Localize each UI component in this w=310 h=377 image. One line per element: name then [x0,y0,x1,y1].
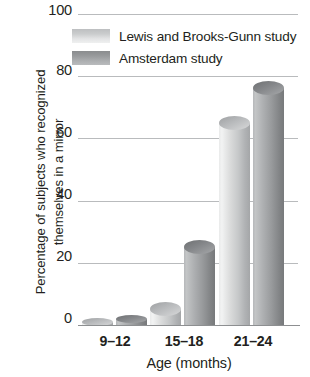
bar-body [253,88,284,325]
bar-body [219,123,250,325]
bar-chart: Percentage of subjects who recognized th… [0,0,310,377]
y-tick-20: 20 [30,248,72,264]
bar-cap [150,302,181,316]
bar-cap [253,81,284,95]
bar-amsterdam-15-18 [184,247,215,325]
y-tick-40: 40 [30,186,72,202]
bar-lewis-15-18 [150,309,181,325]
legend-item-amsterdam: Amsterdam study [72,48,296,68]
y-tick-0: 0 [30,310,72,326]
bar-lewis-21-24 [219,123,250,325]
legend-item-lewis: Lewis and Brooks-Gunn study [72,26,296,46]
gridline-100 [78,14,298,15]
x-tick-9-12: 9–12 [80,333,150,349]
x-axis-title: Age (months) [78,355,300,371]
y-tick-80: 80 [30,62,72,78]
bar-cap [184,240,215,254]
bar-body [184,247,215,325]
bar-cap [219,116,250,130]
bar-cap [116,315,147,323]
chart-legend: Lewis and Brooks-Gunn study Amsterdam st… [72,26,296,70]
x-axis-line [78,325,300,326]
legend-swatch-icon-lewis [72,29,110,43]
legend-swatch-icon-amsterdam [72,51,110,65]
y-tick-60: 60 [30,124,72,140]
legend-label-amsterdam: Amsterdam study [119,51,223,66]
x-tick-21-24: 21–24 [217,333,289,349]
bar-amsterdam-21-24 [253,88,284,325]
x-tick-15-18: 15–18 [148,333,220,349]
gridline-80 [78,76,298,77]
y-tick-100: 100 [30,2,72,18]
legend-label-lewis: Lewis and Brooks-Gunn study [119,29,296,44]
